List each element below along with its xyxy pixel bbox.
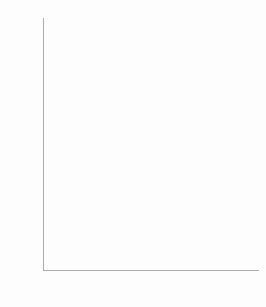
top-chart-y-axis-line <box>43 18 44 146</box>
chart-legend <box>166 256 236 306</box>
bottom-chart-plot-area <box>44 146 259 270</box>
load-duration-chart <box>0 0 266 152</box>
two-panel-figure <box>0 0 266 307</box>
incremental-cost-chart <box>0 140 266 307</box>
top-chart-plot-area <box>44 18 259 141</box>
load-duration-step-line <box>44 18 259 141</box>
incremental-cost-lines <box>44 146 259 270</box>
bottom-chart-y-axis-line <box>43 146 44 270</box>
